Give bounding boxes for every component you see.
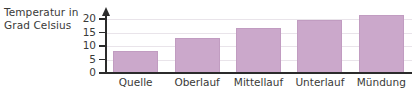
bar: [236, 28, 281, 73]
x-axis-label: Unterlauf: [295, 76, 344, 88]
bar: [175, 38, 220, 73]
x-axis-label: Quelle: [119, 76, 153, 88]
bar: [359, 15, 404, 73]
plot-area: 05101520 QuelleOberlaufMittellaufUnterla…: [0, 0, 420, 98]
y-axis-arrow-icon: [102, 7, 110, 16]
y-axis-tick-label-text: 15: [83, 26, 96, 38]
x-axis-label: Mündung: [357, 76, 406, 88]
y-axis-tick-label-text: 5: [89, 53, 96, 65]
bar: [297, 20, 342, 73]
y-axis-line: [105, 14, 107, 73]
x-axis-line: [105, 72, 412, 74]
y-axis-tick-label-text: 0: [89, 66, 96, 78]
y-axis-tick-label-text: 20: [83, 12, 96, 24]
temperature-bar-chart: Temperatur in Grad Celsius 05101520 Quel…: [0, 0, 420, 98]
bar: [113, 51, 158, 73]
y-axis-tick-label-text: 10: [83, 39, 96, 51]
x-axis-label: Mittellauf: [234, 76, 283, 88]
x-axis-label: Oberlauf: [174, 76, 219, 88]
